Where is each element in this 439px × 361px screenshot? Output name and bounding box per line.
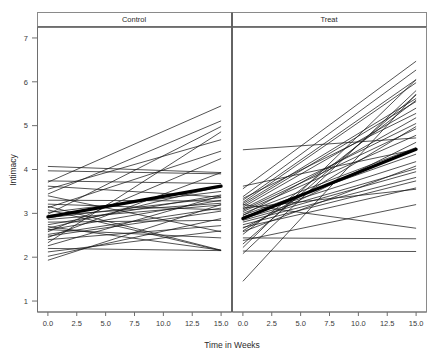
subject-line xyxy=(48,140,221,190)
y-tick-label-6: 6 xyxy=(24,78,28,87)
subject-line xyxy=(243,238,416,239)
series-group-treat xyxy=(243,61,416,281)
x-tick-label-12.5: 12.5 xyxy=(185,319,200,328)
y-tick-label-2: 2 xyxy=(24,253,28,262)
x-tick-label-10.0: 10.0 xyxy=(351,319,366,328)
chart-container: Control Treat 1234567 0.02.55.07.510.012… xyxy=(0,0,439,361)
x-axis-title: Time in Weeks xyxy=(204,340,260,350)
subject-line xyxy=(243,166,416,232)
y-axis: 1234567 xyxy=(24,27,38,312)
subject-line xyxy=(243,135,416,211)
x-tick-label-10.0: 10.0 xyxy=(156,319,171,328)
subject-line xyxy=(243,100,416,234)
x-tick-label-5.0: 5.0 xyxy=(295,319,305,328)
x-tick-label-2.5: 2.5 xyxy=(72,319,82,328)
spaghetti-plot-svg: Control Treat 1234567 0.02.55.07.510.012… xyxy=(0,0,439,361)
y-tick-label-4: 4 xyxy=(24,165,28,174)
strip-label-control: Control xyxy=(122,15,147,24)
subject-line xyxy=(243,118,416,216)
y-axis-title: Intimacy xyxy=(8,153,18,185)
x-tick-label-15.0: 15.0 xyxy=(409,319,424,328)
x-tick-label-5.0: 5.0 xyxy=(100,319,110,328)
x-tick-label-2.5: 2.5 xyxy=(267,319,277,328)
x-tick-label-0.0: 0.0 xyxy=(43,319,53,328)
y-tick-label-3: 3 xyxy=(24,209,28,218)
subject-line xyxy=(243,70,416,197)
series-group-control xyxy=(48,106,221,260)
x-axis-control: 0.02.55.07.510.012.515.0 xyxy=(38,312,232,328)
x-tick-label-7.5: 7.5 xyxy=(129,319,139,328)
y-tick-label-5: 5 xyxy=(24,121,28,130)
y-tick-label-7: 7 xyxy=(24,34,28,43)
x-tick-label-7.5: 7.5 xyxy=(324,319,334,328)
strip-label-treat: Treat xyxy=(320,15,338,24)
x-tick-label-12.5: 12.5 xyxy=(380,319,395,328)
subject-line xyxy=(243,91,416,254)
y-tick-label-1: 1 xyxy=(24,297,28,306)
x-axis-treat: 0.02.55.07.510.012.515.0 xyxy=(233,312,427,328)
x-tick-label-0.0: 0.0 xyxy=(238,319,248,328)
x-tick-label-15.0: 15.0 xyxy=(214,319,229,328)
